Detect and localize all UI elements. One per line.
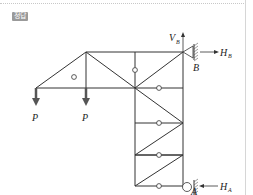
vb-sub: B (176, 39, 180, 45)
support-a-label: A (190, 186, 198, 195)
hb-arrow (200, 50, 219, 54)
hb-sub: B (228, 53, 232, 59)
truss-members (36, 52, 183, 186)
hb-label: H (219, 47, 228, 58)
ha-label: H (219, 181, 228, 192)
ha-arrow (199, 184, 218, 188)
truss-diagram: P P V B H B B H A A (0, 0, 253, 195)
load-right-label: P (81, 112, 88, 123)
load-left-label: P (31, 112, 38, 123)
support-b-pin (183, 43, 198, 61)
vb-arrow (181, 32, 185, 52)
zero-force-markers (72, 68, 162, 189)
load-right (82, 88, 90, 106)
load-left (32, 88, 40, 106)
support-b-label: B (193, 62, 199, 73)
ha-sub: A (227, 187, 232, 193)
